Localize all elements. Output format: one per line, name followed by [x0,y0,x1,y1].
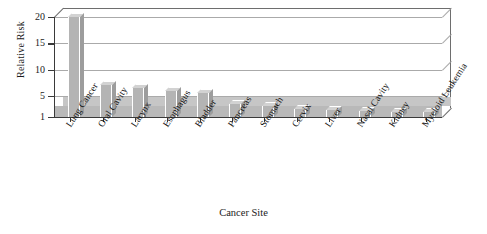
bar-chart: Relative Risk 15101520 Lung CancerOral C… [0,0,487,234]
gridline [54,43,442,44]
y-axis-tick-label: 1 [40,112,45,122]
plot-floor-slant [54,106,63,115]
gridline [54,70,442,71]
y-axis-tick-label: 10 [35,65,45,75]
y-axis-line [54,17,55,117]
y-axis-tick-label: 5 [40,91,45,101]
x-axis-title: Cancer Site [0,207,487,218]
y-axis-tick-label: 20 [35,12,45,22]
y-axis-title: Relative Risk [15,2,26,98]
plot-depth-edge-bottomright [442,108,452,118]
y-axis-tick-label: 15 [35,38,45,48]
gridline [54,17,442,18]
